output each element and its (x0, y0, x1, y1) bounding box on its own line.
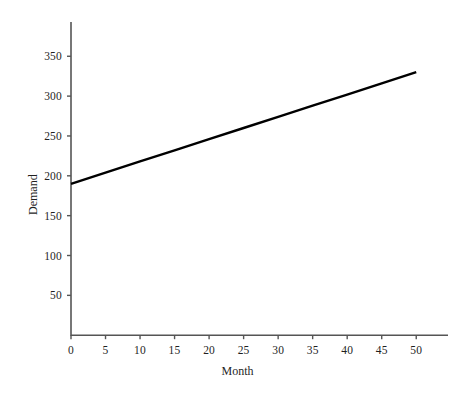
y-tick-label: 300 (24, 90, 62, 102)
y-tick-label: 100 (24, 250, 62, 262)
line-chart: 50100150200250300350 0510152025303540455… (0, 0, 475, 395)
x-tick-label: 35 (307, 344, 319, 356)
x-tick-label: 45 (376, 344, 388, 356)
series-line-demand (71, 72, 416, 184)
y-axis-title: Demand (26, 174, 41, 215)
y-tick-label: 50 (24, 289, 62, 301)
x-tick-label: 0 (68, 344, 74, 356)
x-axis-title: Month (0, 364, 475, 379)
y-tick-label: 350 (24, 50, 62, 62)
axis-lines (71, 22, 448, 336)
x-tick-label: 40 (341, 344, 353, 356)
x-tick-label: 50 (410, 344, 422, 356)
x-tick-label: 15 (169, 344, 181, 356)
chart-canvas (0, 0, 475, 395)
data-series-layer (71, 72, 416, 184)
x-tick-label: 30 (272, 344, 284, 356)
x-tick-label: 25 (238, 344, 250, 356)
x-tick-label: 5 (103, 344, 109, 356)
y-tick-label: 250 (24, 130, 62, 142)
x-tick-label: 10 (134, 344, 146, 356)
x-tick-label: 20 (203, 344, 215, 356)
